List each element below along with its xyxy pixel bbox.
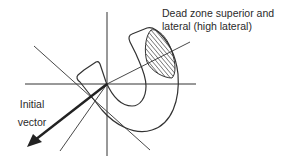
dead-zone-label-line2: lateral (high lateral)	[162, 20, 274, 33]
dead-zone-label: Dead zone superior and lateral (high lat…	[162, 7, 274, 33]
initial-vector-label-line1: Initial	[14, 98, 50, 111]
hatched-dead-zone	[140, 25, 180, 83]
initial-vector-label: Initial vector	[14, 98, 50, 129]
diagram-canvas: Dead zone superior and lateral (high lat…	[0, 0, 296, 164]
dead-zone-label-line1: Dead zone superior and	[162, 7, 274, 20]
oblique-axis-lower-left	[60, 84, 107, 151]
initial-vector-label-line2: vector	[14, 116, 50, 129]
